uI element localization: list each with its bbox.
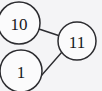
node-layer: 10 11 1 — [0, 2, 96, 91]
graph-svg: 10 11 1 — [0, 0, 102, 91]
node-1-label: 1 — [17, 63, 26, 82]
node-11-label: 11 — [69, 33, 85, 52]
graph-node-11[interactable]: 11 — [58, 22, 96, 60]
diagram-canvas: 10 11 1 — [0, 0, 102, 91]
graph-edge-1-to-11 — [41, 52, 62, 76]
graph-node-1[interactable]: 1 — [0, 50, 42, 91]
graph-edge-10-to-11 — [39, 29, 60, 36]
graph-node-10[interactable]: 10 — [0, 2, 40, 44]
node-10-label: 10 — [11, 15, 28, 34]
